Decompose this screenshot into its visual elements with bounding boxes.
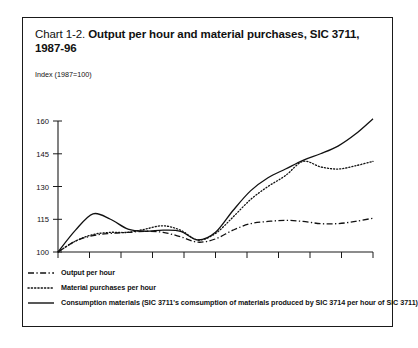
x-axis-ticks xyxy=(58,252,373,258)
y-tick-label-145: 145 xyxy=(36,150,49,159)
legend-label-output-per-hour: Output per hour xyxy=(61,268,115,277)
y-tick-label-130: 130 xyxy=(36,183,49,192)
legend-label-material-purchases: Material purchases per hour xyxy=(61,283,156,292)
legend-item-material-purchases: Material purchases per hour xyxy=(23,281,392,296)
legend-item-output-per-hour: Output per hour xyxy=(23,266,392,281)
legend-item-consumption-materials: Consumption materials (SIC 3711's comsum… xyxy=(23,296,392,311)
chart-title: Chart 1-2. Output per hour and material … xyxy=(35,27,380,55)
y-tick-label-160: 160 xyxy=(36,117,49,126)
y-tick-label-115: 115 xyxy=(37,215,49,224)
solid-line-icon xyxy=(27,296,55,310)
legend-label-consumption-materials: Consumption materials (SIC 3711's comsum… xyxy=(61,298,418,307)
plot-svg: 160 145 130 115 100 xyxy=(23,80,392,260)
series-line-material-purchases xyxy=(58,161,373,252)
series-line-consumption-materials xyxy=(58,119,373,252)
dotted-line-icon xyxy=(27,281,55,295)
series-line-output-per-hour xyxy=(58,218,373,252)
chart-legend: Output per hour Material purchases per h… xyxy=(23,266,392,311)
plot-area: 160 145 130 115 100 xyxy=(23,80,392,260)
y-axis-units-label: Index (1987=100) xyxy=(35,70,92,79)
chart-frame: Chart 1-2. Output per hour and material … xyxy=(22,17,393,327)
dash-dot-line-icon xyxy=(27,266,55,280)
y-tick-label-100: 100 xyxy=(36,248,49,257)
chart-title-lead: Chart 1-2. xyxy=(35,28,85,40)
